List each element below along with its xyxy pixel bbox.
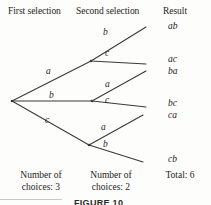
footer-first-line1: Number of <box>6 170 76 182</box>
branch-label: a <box>101 122 106 132</box>
branch-label: c <box>105 48 109 58</box>
figure-caption: FIGURE 10 <box>74 198 123 205</box>
result-label: ab <box>168 21 178 31</box>
result-label: ba <box>168 66 178 76</box>
tree-edge <box>91 27 146 61</box>
tree-diagram-figure: First selection Second selection Result … <box>0 0 211 205</box>
branch-label: b <box>103 27 108 37</box>
result-label: cb <box>168 154 177 164</box>
tree-edge <box>12 101 89 145</box>
footer-second-choices: Number of choices: 2 <box>76 170 146 193</box>
tree-edge <box>92 101 146 107</box>
caption-divider-rule <box>0 199 62 200</box>
tree-edge <box>89 115 143 145</box>
tree-node <box>90 60 93 63</box>
branch-label: b <box>103 139 108 149</box>
footer-second-line2: choices: 2 <box>76 182 146 194</box>
footer-total: Total: 6 <box>152 170 208 182</box>
result-label: bc <box>168 98 177 108</box>
branch-label: b <box>49 90 54 100</box>
footer-first-choices: Number of choices: 3 <box>6 170 76 193</box>
footer-second-line1: Number of <box>76 170 146 182</box>
tree-node <box>11 100 14 103</box>
result-label: ac <box>168 54 177 64</box>
tree-node <box>91 100 94 103</box>
branch-label: c <box>45 115 49 125</box>
tree-edge <box>89 145 143 162</box>
result-label: ca <box>168 110 177 120</box>
branch-label: a <box>46 66 51 76</box>
tree-edge <box>91 61 146 64</box>
branch-label: c <box>105 95 109 105</box>
footer-first-line2: choices: 3 <box>6 182 76 194</box>
tree-edge <box>92 71 146 101</box>
footer-total-value: Total: 6 <box>152 170 208 182</box>
branch-label: a <box>105 79 110 89</box>
tree-node <box>88 144 91 147</box>
